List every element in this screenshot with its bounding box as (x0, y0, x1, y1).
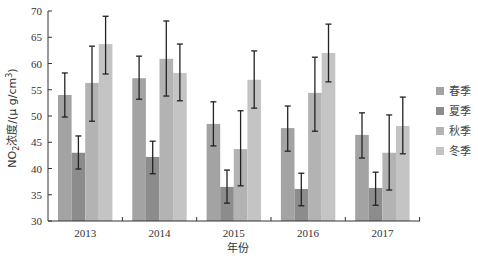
legend-swatch (436, 147, 444, 155)
legend-item: 冬季 (436, 144, 471, 158)
y-tick-label: 70 (31, 5, 43, 17)
x-tick-label: 2014 (149, 227, 172, 239)
no2-seasonal-bar-chart: 303540455055606570 20132014201520162017 … (0, 0, 478, 265)
y-axis-title: NO2浓度/(μ g/cm3) (5, 68, 21, 167)
x-tick-label: 2017 (371, 227, 394, 239)
legend-item: 夏季 (436, 105, 471, 118)
y-tick-label: 60 (31, 58, 43, 70)
x-tick-label: 2016 (297, 227, 320, 239)
x-tick-label: 2013 (74, 227, 97, 239)
y-tick-label: 65 (31, 31, 43, 43)
legend-label: 冬季 (449, 144, 471, 158)
legend-item: 秋季 (436, 124, 471, 138)
bars (58, 44, 410, 221)
y-tick-label: 50 (31, 110, 43, 122)
y-axis: 303540455055606570 (31, 5, 52, 227)
legend-item: 春季 (436, 85, 471, 98)
legend: 春季夏季秋季冬季 (436, 85, 471, 158)
legend-label: 春季 (449, 85, 471, 98)
x-axis-title: 年份 (227, 241, 249, 255)
y-tick-label: 35 (31, 189, 43, 201)
y-tick-label: 45 (31, 136, 43, 148)
legend-swatch (436, 87, 444, 95)
y-tick-label: 40 (31, 163, 43, 175)
y-tick-label: 55 (31, 84, 43, 96)
legend-label: 秋季 (449, 124, 471, 138)
legend-swatch (436, 127, 444, 135)
legend-swatch (436, 107, 444, 115)
x-tick-label: 2015 (223, 227, 246, 239)
legend-label: 夏季 (449, 105, 471, 118)
y-tick-label: 30 (31, 215, 43, 227)
